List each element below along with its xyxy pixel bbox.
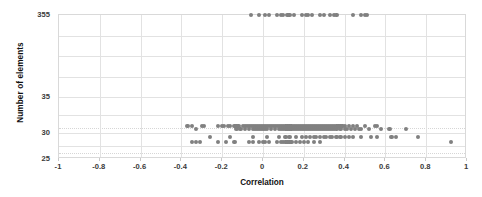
h-gridline [59, 146, 465, 147]
h-gridline [59, 36, 465, 37]
x-tick-mark [221, 158, 222, 161]
data-point [287, 13, 291, 17]
x-tick-label: -0.4 [160, 162, 200, 171]
y-tick-label: 355 [8, 10, 50, 19]
data-point [224, 140, 228, 144]
x-tick-mark [425, 158, 426, 161]
x-tick-mark [180, 158, 181, 161]
y-tick-label: 30 [8, 128, 50, 137]
data-point [251, 135, 255, 139]
data-point [265, 135, 269, 139]
data-point [449, 140, 453, 144]
data-point [404, 127, 408, 131]
data-point [369, 135, 373, 139]
x-tick-label: -1 [38, 162, 78, 171]
v-gridline [426, 15, 427, 157]
data-point [338, 127, 342, 131]
data-point [322, 13, 326, 17]
v-gridline [385, 15, 386, 157]
data-point [359, 127, 363, 131]
data-point [310, 13, 314, 17]
y-tick-label: 25 [8, 154, 50, 163]
data-point [249, 13, 253, 17]
x-tick-mark [262, 158, 263, 161]
data-point [228, 135, 232, 139]
data-point [202, 124, 206, 128]
x-tick-mark [344, 158, 345, 161]
plot-area [58, 14, 466, 158]
data-point [351, 135, 355, 139]
x-tick-mark [140, 158, 141, 161]
h-gridline [59, 115, 465, 116]
data-point [365, 13, 369, 17]
x-tick-label: -0.8 [79, 162, 119, 171]
data-point [267, 140, 271, 144]
v-gridline [222, 15, 223, 157]
x-tick-mark [99, 158, 100, 161]
h-gridline-dotted [59, 153, 465, 154]
x-tick-label: 0.2 [283, 162, 323, 171]
data-point [375, 135, 379, 139]
data-point [232, 140, 236, 144]
data-point [277, 135, 281, 139]
x-tick-label: 0.4 [324, 162, 364, 171]
data-point [416, 135, 420, 139]
x-tick-label: 0.6 [364, 162, 404, 171]
data-point [379, 127, 383, 131]
data-point [338, 135, 342, 139]
v-gridline [181, 15, 182, 157]
data-point [267, 13, 271, 17]
data-point [287, 135, 291, 139]
data-point [351, 13, 355, 17]
data-point [367, 127, 371, 131]
x-tick-mark [303, 158, 304, 161]
data-point [387, 127, 391, 131]
data-point [251, 140, 255, 144]
data-point [306, 140, 310, 144]
data-point [359, 135, 363, 139]
scatter-chart: Number of elements Correlation 253035355… [0, 0, 482, 197]
h-gridline [59, 56, 465, 57]
y-tick-label: 35 [8, 92, 50, 101]
y-axis-title: Number of elements [16, 23, 25, 143]
x-tick-mark [466, 158, 467, 161]
x-tick-label: 0.8 [405, 162, 445, 171]
data-point [389, 135, 393, 139]
x-tick-mark [384, 158, 385, 161]
data-point [394, 135, 398, 139]
x-tick-label: -0.2 [201, 162, 241, 171]
data-point [194, 127, 198, 131]
data-point [198, 140, 202, 144]
data-point [318, 140, 322, 144]
data-point [294, 135, 298, 139]
x-tick-label: 0 [242, 162, 282, 171]
h-gridline [59, 133, 465, 134]
data-point [257, 13, 261, 17]
x-tick-label: 1 [446, 162, 482, 171]
x-tick-mark [58, 158, 59, 161]
data-point [190, 124, 194, 128]
data-point [185, 124, 189, 128]
v-gridline [100, 15, 101, 157]
x-tick-label: -0.6 [120, 162, 160, 171]
data-point [292, 13, 296, 17]
v-gridline [263, 15, 264, 157]
data-point [312, 140, 316, 144]
data-point [334, 13, 338, 17]
x-axis-title: Correlation [58, 178, 466, 187]
h-gridline [59, 97, 465, 98]
data-point [208, 135, 212, 139]
h-gridline [59, 77, 465, 78]
v-gridline [141, 15, 142, 157]
data-point [216, 140, 220, 144]
